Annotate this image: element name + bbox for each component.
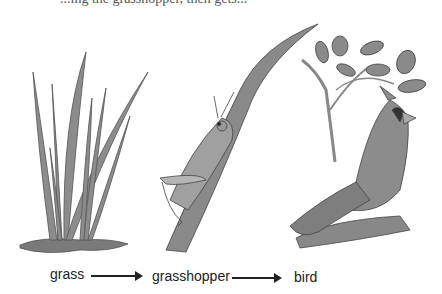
label-grasshopper: grasshopper (152, 268, 230, 284)
grass-illustration (20, 52, 148, 253)
bird-illustration (290, 36, 427, 248)
grasshopper-illustration (160, 24, 318, 252)
arrow-grasshopper-to-bird (232, 277, 280, 279)
label-bird: bird (294, 269, 317, 285)
arrow-grass-to-grasshopper (91, 275, 141, 277)
food-chain-illustration (0, 0, 442, 294)
label-grass: grass (50, 266, 84, 282)
